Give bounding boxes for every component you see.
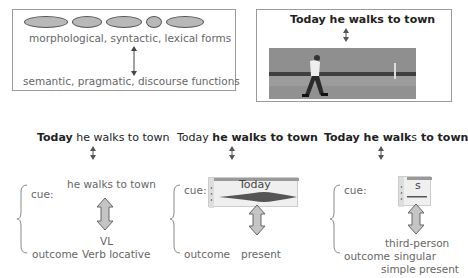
- cue-label: cue:: [344, 184, 366, 196]
- column-2-sentence: Today he walks to town: [177, 131, 318, 144]
- form-ellipse: [72, 16, 102, 28]
- form-ellipse: [166, 16, 204, 28]
- brace-icon: [17, 184, 29, 254]
- thick-double-arrow-icon: [96, 197, 114, 231]
- forms-label: morphological, syntactic, lexical forms: [29, 32, 231, 44]
- sentence-text: Today he walks to town: [290, 13, 435, 26]
- form-ellipse: [146, 16, 162, 28]
- thick-double-arrow-icon: [407, 203, 425, 235]
- brace-icon: [330, 184, 342, 254]
- waveform-cue-image: s: [398, 176, 431, 206]
- cue-content: Today: [239, 178, 271, 191]
- double-arrow-icon: [229, 146, 235, 160]
- brace-icon: [170, 184, 182, 254]
- column-1-sentence: Today he walks to town: [37, 131, 169, 144]
- form-ellipse: [24, 16, 68, 28]
- sentence-image-panel: Today he walks to town: [256, 9, 452, 102]
- double-arrow-icon: [90, 146, 96, 160]
- cue-label: cue:: [184, 184, 206, 196]
- cue-label: cue:: [31, 188, 53, 200]
- outcome-value-line-2: singular: [394, 250, 436, 262]
- outcome-value-line-2: Verb locative: [82, 248, 150, 260]
- functions-label: semantic, pragmatic, discourse functions: [23, 75, 240, 87]
- double-arrow-icon: [130, 46, 138, 76]
- waveform-cue-image: Today: [208, 177, 298, 207]
- cue-content: he walks to town: [67, 178, 156, 190]
- outcome-value-line-3: simple present: [381, 263, 459, 275]
- walking-man-photo: [269, 48, 416, 99]
- outcome-value-line-1: third-person: [385, 237, 449, 249]
- double-arrow-icon: [343, 28, 349, 42]
- thick-double-arrow-icon: [248, 204, 266, 236]
- column-3-sentence: Today he walks to town: [324, 131, 468, 144]
- form-ellipse: [106, 16, 142, 28]
- outcome-label: outcome: [344, 250, 390, 262]
- double-arrow-icon: [378, 146, 384, 160]
- outcome-value-line-1: VL: [100, 235, 113, 247]
- outcome-label: outcome: [32, 248, 78, 260]
- outcome-value: present: [241, 248, 281, 260]
- forms-functions-panel: morphological, syntactic, lexical forms …: [12, 9, 236, 91]
- cue-content: s: [415, 179, 421, 192]
- outcome-label: outcome: [184, 248, 230, 260]
